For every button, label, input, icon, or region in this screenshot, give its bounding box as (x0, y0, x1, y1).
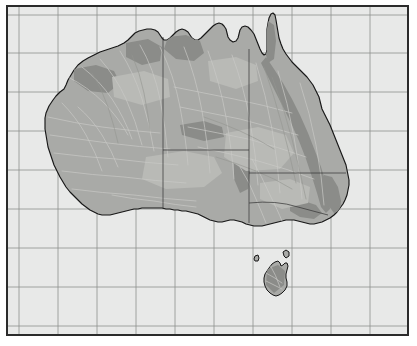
king-island[interactable] (254, 255, 259, 261)
map-figure (6, 5, 409, 336)
map-frame-border (6, 5, 409, 336)
map-canvas[interactable] (8, 7, 407, 334)
